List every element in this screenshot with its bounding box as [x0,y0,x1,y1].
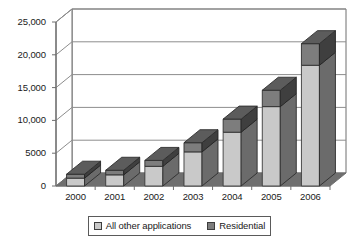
legend-label: Residential [219,221,265,231]
x-axis: 2000200120022003200420052006 [0,0,357,247]
x-tick-label: 2006 [290,191,330,202]
x-tick-label: 2004 [212,191,252,202]
legend-item[interactable]: Residential [207,221,265,231]
legend-swatch-icon [207,222,215,230]
x-tick-label: 2002 [134,191,174,202]
x-tick-label: 2000 [56,191,96,202]
bar-chart: 0500010,00015,00020,00025,000 2000200120… [0,0,357,247]
x-tick-label: 2001 [95,191,135,202]
legend-item[interactable]: All other applications [94,221,191,231]
legend-swatch-icon [94,222,102,230]
x-tick-label: 2003 [173,191,213,202]
chart-legend: All other applicationsResidential [88,216,271,236]
x-tick-label: 2005 [251,191,291,202]
legend-label: All other applications [106,221,191,231]
